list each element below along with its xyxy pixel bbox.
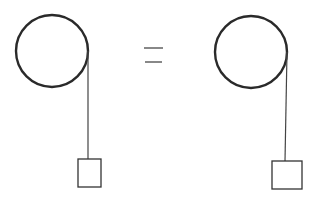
left-pulley-circle bbox=[16, 15, 88, 87]
right-block bbox=[272, 161, 302, 189]
pulley-diagram bbox=[0, 0, 314, 202]
left-block bbox=[78, 159, 101, 187]
left-pulley-system bbox=[16, 15, 101, 187]
diagram-canvas bbox=[0, 0, 314, 202]
equals-sign bbox=[144, 48, 163, 62]
right-pulley-system bbox=[215, 16, 302, 189]
right-pulley-circle bbox=[215, 16, 287, 88]
right-string bbox=[285, 52, 287, 161]
